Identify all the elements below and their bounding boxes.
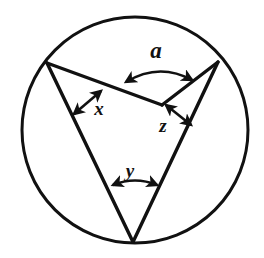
angle-label-x: x <box>93 98 104 119</box>
angle-marker-y-arc <box>113 181 157 186</box>
angle-label-a: a <box>150 38 162 63</box>
angle-marker-a-arc <box>126 71 192 82</box>
segment-right-to-bottom <box>133 62 218 242</box>
angle-label-z: z <box>158 115 167 136</box>
geometry-diagram: a x z y <box>0 0 264 258</box>
inscribed-zigzag-shape <box>47 62 218 242</box>
diagram-container: a x z y <box>0 0 264 258</box>
outer-circle <box>22 17 248 243</box>
angle-label-y: y <box>124 160 135 181</box>
angle-marker-z-arrow <box>166 105 191 125</box>
